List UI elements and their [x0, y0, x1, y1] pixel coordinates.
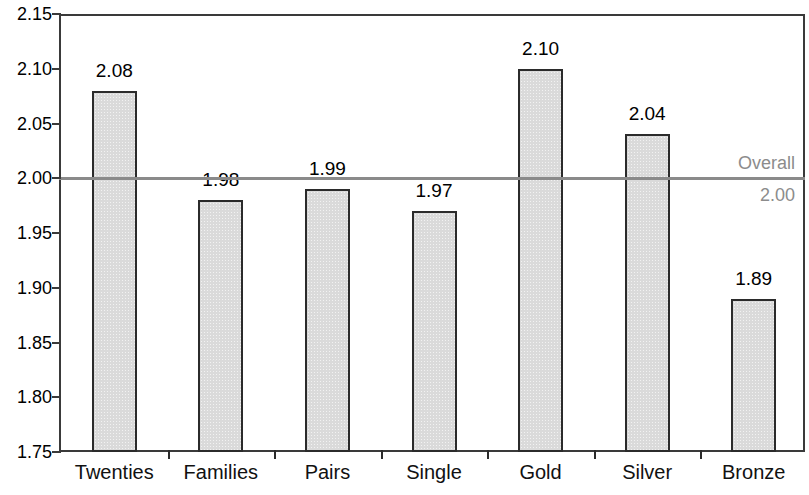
x-axis-tick-mark — [487, 450, 489, 459]
bar-value-label: 2.10 — [481, 39, 601, 58]
y-axis-tick-mark — [52, 232, 61, 234]
y-axis-tick-label: 1.80 — [0, 388, 52, 406]
y-axis-tick-mark — [52, 177, 61, 179]
y-axis-tick-label: 1.90 — [0, 279, 52, 297]
bar-value-label: 1.99 — [267, 159, 387, 178]
y-axis-tick-mark — [52, 287, 61, 289]
x-axis-tick-mark — [381, 450, 383, 459]
bar — [412, 211, 457, 452]
bar-value-label: 1.89 — [694, 269, 809, 288]
overall-reference-line — [59, 177, 805, 180]
overall-reference-value: 2.00 — [595, 186, 795, 204]
y-axis-tick-label: 1.75 — [0, 443, 52, 461]
y-axis-tick-mark — [52, 68, 61, 70]
x-axis-tick-mark — [168, 450, 170, 459]
bar-chart: 2.152.102.052.001.951.901.851.801.75 2.0… — [0, 0, 809, 495]
y-axis: 2.152.102.052.001.951.901.851.801.75 — [0, 0, 52, 495]
bar — [518, 69, 563, 452]
y-axis-tick-mark — [52, 451, 61, 453]
y-axis-tick-label: 1.95 — [0, 224, 52, 242]
bar — [92, 91, 137, 452]
bar-value-label: 2.08 — [54, 61, 174, 80]
y-axis-tick-mark — [52, 13, 61, 15]
y-axis-tick-label: 2.00 — [0, 169, 52, 187]
y-axis-tick-mark — [52, 123, 61, 125]
bar-value-label: 1.97 — [374, 181, 494, 200]
x-axis-tick-mark — [594, 450, 596, 459]
y-axis-tick-label: 1.85 — [0, 334, 52, 352]
bar — [625, 134, 670, 452]
bar-value-label: 2.04 — [587, 104, 707, 123]
y-axis-tick-label: 2.15 — [0, 5, 52, 23]
y-axis-tick-mark — [52, 396, 61, 398]
overall-reference-label: Overall — [595, 154, 795, 172]
y-axis-tick-label: 2.10 — [0, 60, 52, 78]
x-axis-tick-mark — [700, 450, 702, 459]
x-axis-category-label: Bronze — [684, 462, 809, 482]
y-axis-tick-mark — [52, 342, 61, 344]
x-axis-tick-mark — [274, 450, 276, 459]
y-axis-tick-label: 2.05 — [0, 115, 52, 133]
bar — [305, 189, 350, 452]
bar — [198, 200, 243, 452]
bar — [731, 299, 776, 452]
